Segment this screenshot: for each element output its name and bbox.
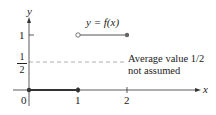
annotation-line-1: Average value 1/2 (128, 54, 204, 65)
y-tick-label-half-numerator: 1 (17, 52, 27, 64)
open-point-icon (76, 33, 80, 37)
function-label: y = f(x) (86, 17, 119, 28)
y-tick-label-half-denominator: 2 (17, 65, 27, 75)
origin-label: 0 (21, 95, 27, 106)
chart: y x 0 1 2 1 1 2 y = f(x) Average value 1… (0, 0, 216, 115)
x-tick-label-1: 1 (75, 95, 81, 106)
closed-point-x1-icon (76, 88, 80, 92)
annotation-line-2: not assumed (128, 66, 180, 77)
y-axis-label: y (27, 6, 32, 17)
closed-point-x2-icon (125, 33, 129, 37)
y-axis-arrow-icon (27, 17, 31, 23)
x-axis-label: x (203, 84, 208, 95)
closed-point-origin-icon (27, 88, 31, 92)
y-tick-label-1: 1 (19, 30, 25, 41)
x-tick-label-2: 2 (124, 95, 130, 106)
x-axis-arrow-icon (195, 88, 201, 92)
